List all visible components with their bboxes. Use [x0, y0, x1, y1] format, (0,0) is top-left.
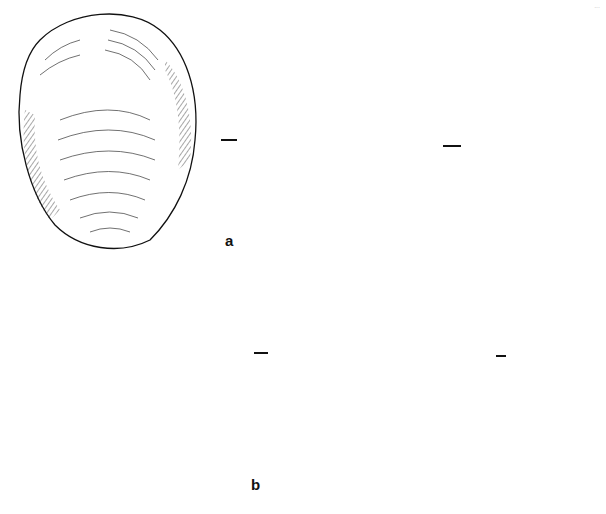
figure-canvas [0, 0, 606, 514]
view-separator-a1 [221, 139, 237, 141]
view-separator-b2 [496, 355, 506, 357]
figure-label-a: a [225, 232, 233, 249]
figure-label-b: b [251, 476, 260, 493]
view-separator-a2 [443, 145, 461, 147]
view-separator-b1 [254, 352, 268, 354]
artifact-a-ventral [19, 14, 196, 248]
